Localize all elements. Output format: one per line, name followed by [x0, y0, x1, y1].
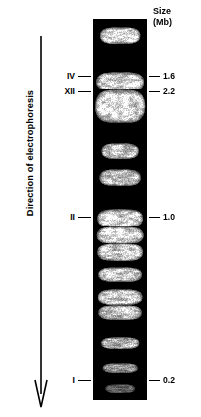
size-tick-line [149, 91, 160, 92]
chromosome-label-text: IV [67, 71, 75, 81]
chromosome-tick-line [78, 76, 91, 77]
chromosome-tick-line [78, 217, 91, 218]
gel-band [93, 289, 147, 305]
gel-band [93, 169, 147, 186]
gel-band-canvas [93, 337, 147, 349]
gel-band [93, 27, 147, 44]
gel-band-canvas [93, 384, 147, 393]
size-marker-1-6: 1.6 [149, 72, 175, 81]
chromosome-tick-line [78, 380, 91, 381]
size-tick-line [149, 380, 160, 381]
gel-band-canvas [93, 243, 147, 261]
gel-band [93, 226, 147, 244]
gel-band [93, 384, 147, 393]
gel-band-canvas [93, 27, 147, 44]
chromosome-label-column: IVXIIIII [0, 0, 91, 417]
gel-band [93, 337, 147, 349]
size-tick-line [149, 76, 160, 77]
size-marker-text: 1.6 [163, 71, 175, 81]
chromosome-tick-line [78, 91, 91, 92]
gel-band [93, 143, 147, 159]
gel-band-canvas [93, 143, 147, 159]
gel-band-canvas [93, 267, 147, 282]
size-tick-line [149, 217, 160, 218]
gel-band-canvas [93, 363, 147, 373]
gel-electrophoresis-figure: Direction of electrophoresis IVXIIIII Si… [0, 0, 201, 417]
gel-band-canvas [93, 226, 147, 244]
gel-band-canvas [93, 89, 147, 123]
chromosome-label-ii: II [70, 213, 91, 222]
gel-band-canvas [93, 305, 147, 320]
chromosome-label-text: II [70, 212, 75, 222]
gel-band [93, 267, 147, 282]
gel-band-canvas [93, 169, 147, 186]
gel-band [93, 89, 147, 123]
size-marker-column: 1.62.21.00.2 [149, 0, 201, 417]
gel-band [93, 305, 147, 320]
size-marker-text: 0.2 [163, 375, 175, 385]
chromosome-label-text: I [73, 375, 75, 385]
gel-band-canvas [93, 289, 147, 305]
chromosome-label-xii: XII [64, 87, 91, 96]
gel-lane [93, 19, 147, 400]
size-marker-1-0: 1.0 [149, 213, 175, 222]
size-marker-text: 2.2 [163, 86, 175, 96]
chromosome-label-iv: IV [67, 72, 91, 81]
gel-band [93, 363, 147, 373]
size-marker-0-2: 0.2 [149, 376, 175, 385]
gel-band [93, 243, 147, 261]
size-marker-2-2: 2.2 [149, 87, 175, 96]
size-marker-text: 1.0 [163, 212, 175, 222]
chromosome-label-i: I [73, 376, 91, 385]
chromosome-label-text: XII [64, 86, 75, 96]
